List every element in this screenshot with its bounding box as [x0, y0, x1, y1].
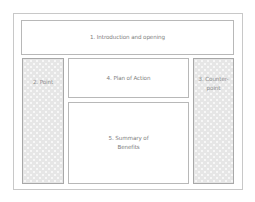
- summary-line-1: 5. Summary of: [108, 135, 148, 141]
- section-summary-of-benefits-label: 5. Summary of Benefits: [108, 134, 148, 152]
- section-plan-of-action-label: 4. Plan of Action: [107, 74, 151, 83]
- counter-point-line-2: point: [207, 85, 221, 91]
- section-plan-of-action: 4. Plan of Action: [68, 58, 189, 98]
- section-introduction: 1. Introduction and opening: [21, 20, 234, 55]
- section-counter-point: 3. Counter- point: [193, 58, 234, 184]
- counter-point-line-1: 3. Counter-: [198, 76, 228, 82]
- section-counter-point-label: 3. Counter- point: [198, 75, 228, 93]
- section-introduction-label: 1. Introduction and opening: [90, 33, 165, 42]
- section-point: 2. Point: [22, 58, 64, 184]
- section-point-label: 2. Point: [33, 78, 53, 87]
- section-summary-of-benefits: 5. Summary of Benefits: [68, 102, 189, 184]
- summary-line-2: Benefits: [117, 144, 139, 150]
